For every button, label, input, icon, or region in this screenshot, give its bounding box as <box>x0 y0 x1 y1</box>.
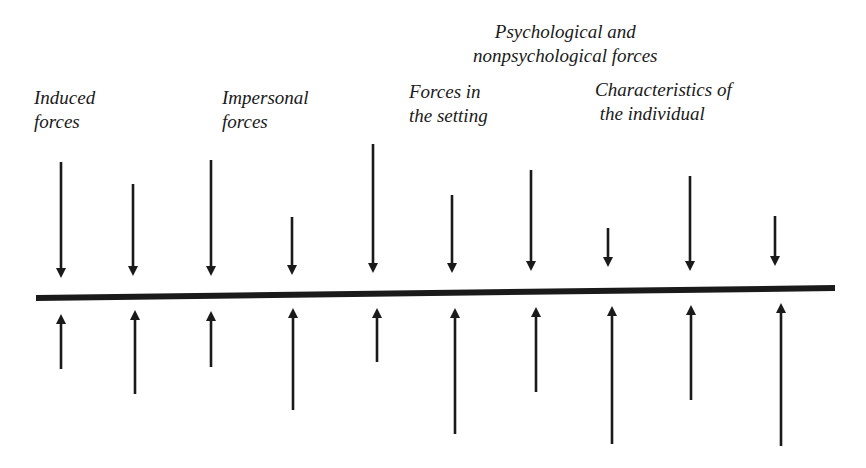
up-arrow-icon <box>531 307 541 392</box>
up-arrow-icon <box>130 310 140 394</box>
downward-force-arrows <box>56 144 780 278</box>
up-arrow-icon <box>56 314 66 369</box>
down-arrow-icon <box>287 217 297 275</box>
down-arrow-icon <box>770 216 780 266</box>
up-arrow-icon <box>450 308 460 434</box>
upward-force-arrows <box>56 303 786 446</box>
up-arrow-icon <box>776 303 786 446</box>
down-arrow-icon <box>56 162 66 278</box>
up-arrow-icon <box>607 306 617 444</box>
up-arrow-icon <box>372 308 382 362</box>
baseline-line <box>36 288 835 298</box>
down-arrow-icon <box>206 160 216 276</box>
down-arrow-icon <box>603 228 613 267</box>
down-arrow-icon <box>526 170 536 271</box>
down-arrow-icon <box>368 144 378 273</box>
down-arrow-icon <box>128 184 138 276</box>
equilibrium-line <box>36 288 835 298</box>
up-arrow-icon <box>288 308 298 410</box>
force-field-diagram <box>0 0 866 468</box>
down-arrow-icon <box>685 176 695 271</box>
up-arrow-icon <box>686 305 696 400</box>
up-arrow-icon <box>206 311 216 367</box>
down-arrow-icon <box>447 195 457 273</box>
